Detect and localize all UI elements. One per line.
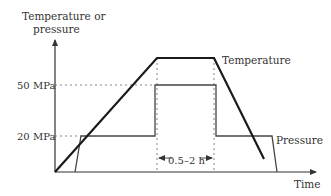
x-axis-label: Time bbox=[294, 178, 321, 190]
pressure-label: Pressure bbox=[276, 134, 323, 146]
process-diagram: Temperature or pressure 50 MPa 20 MPa Te… bbox=[0, 0, 331, 196]
hold-time-label: 0.5–2 h bbox=[168, 155, 205, 166]
y-axis-label-line2: pressure bbox=[33, 23, 80, 35]
tick-label-20mpa: 20 MPa bbox=[17, 131, 55, 142]
temperature-label: Temperature bbox=[222, 54, 291, 66]
y-axis-label-line1: Temperature or bbox=[22, 10, 106, 22]
temperature-curve bbox=[55, 58, 264, 172]
tick-label-50mpa: 50 MPa bbox=[17, 80, 55, 91]
